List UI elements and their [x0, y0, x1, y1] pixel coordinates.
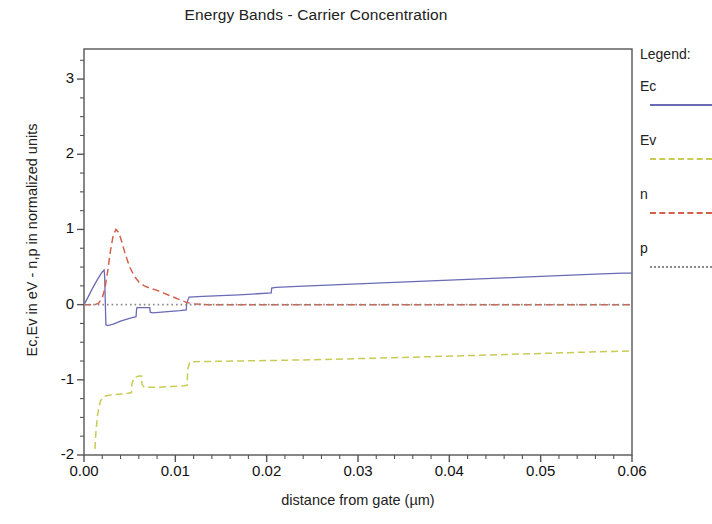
- legend-title: Legend:: [640, 46, 691, 62]
- legend-label-p[interactable]: p: [640, 240, 648, 256]
- legend-label-ec[interactable]: Ec: [640, 78, 656, 94]
- legend-swatch-p: [650, 266, 712, 268]
- legend-swatch-ev: [650, 158, 712, 160]
- legend-swatch-ec: [650, 104, 712, 106]
- legend-label-n[interactable]: n: [640, 186, 648, 202]
- legend-swatch-n: [650, 212, 712, 214]
- plot-frame: [84, 49, 632, 455]
- legend-label-ev[interactable]: Ev: [640, 132, 656, 148]
